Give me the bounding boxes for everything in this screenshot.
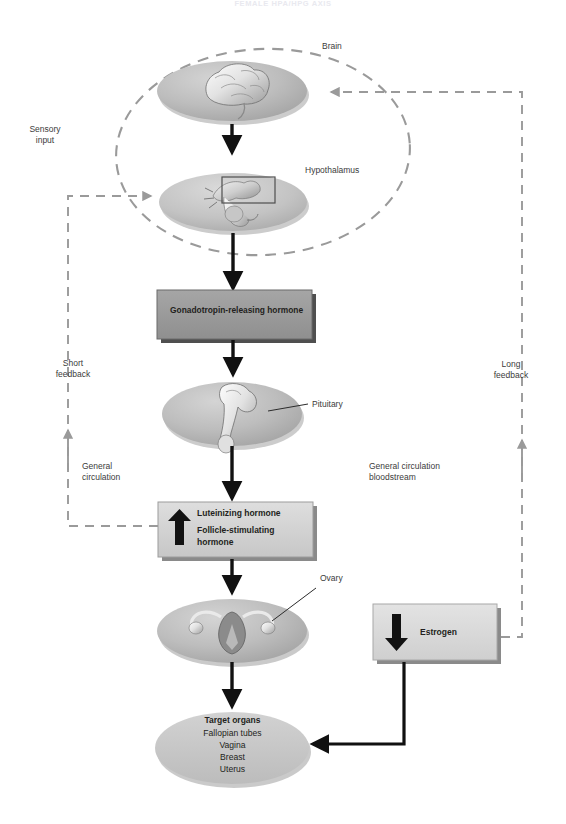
long-feedback-annotation: Long feedback (478, 359, 544, 380)
brain-label: Brain (322, 41, 342, 52)
target-organ-item: Breast (155, 752, 310, 763)
fsh-label-line2: hormone (197, 537, 233, 548)
ovary-node[interactable] (157, 588, 316, 667)
brain-node[interactable] (157, 61, 309, 125)
general-circulation-right-annotation: General circulation bloodstream (369, 461, 440, 482)
ovary-label: Ovary (320, 573, 343, 584)
short-feedback-annotation: Short feedback (40, 358, 106, 379)
target-organ-item: Vagina (155, 740, 310, 751)
arrow-estrogen-to-target-organs (313, 662, 404, 744)
diagram-canvas: FEMALE HPA/HPG AXIS (0, 0, 566, 824)
pituitary-node[interactable] (162, 382, 308, 453)
gnrh-label: Gonadotropin-releasing hormone (170, 305, 300, 316)
sensory-input-annotation: Sensory input (8, 124, 82, 145)
estrogen-label: Estrogen (420, 627, 457, 638)
target-organs-heading: Target organs (155, 715, 310, 726)
diagram-vector-layer (0, 0, 566, 824)
luteinizing-hormone-label: Luteinizing hormone (197, 508, 281, 519)
target-organ-item: Fallopian tubes (155, 728, 310, 739)
pituitary-label: Pituitary (312, 399, 343, 410)
target-organ-item: Uterus (155, 764, 310, 775)
fsh-label-line1: Follicle-stimulating (197, 525, 274, 536)
general-circulation-left-annotation: General circulation (82, 461, 120, 482)
gnrh-box[interactable] (157, 290, 316, 343)
hypothalamus-node[interactable] (159, 173, 309, 235)
hypothalamus-label: Hypothalamus (305, 165, 359, 176)
